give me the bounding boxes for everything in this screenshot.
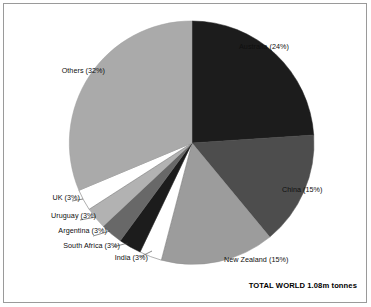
pie-chart-area: Australia (24%) China (15%) New Zealand …	[0, 0, 371, 307]
pie-label-india: India (3%)	[63, 253, 148, 262]
pie-label-uk: UK (3%)	[18, 193, 80, 202]
pie-label-china: China (15%)	[282, 185, 323, 194]
pie-label-new-zealand: New Zealand (15%)	[224, 255, 288, 264]
pie-label-argentina: Argentina (3%)	[22, 226, 107, 235]
chart-page: Australia (24%) China (15%) New Zealand …	[0, 0, 371, 307]
pie-label-others: Others (32%)	[28, 66, 105, 75]
pie-label-australia: Australia (24%)	[239, 42, 289, 51]
pie-label-uruguay: Uruguay (3%)	[18, 211, 96, 220]
total-world-note: TOTAL WORLD 1.08m tonnes	[249, 281, 357, 290]
pie-label-south-africa: South Africa (3%)	[27, 241, 120, 250]
pie-slice-australia[interactable]	[192, 21, 314, 143]
pie-chart-svg	[0, 0, 371, 307]
